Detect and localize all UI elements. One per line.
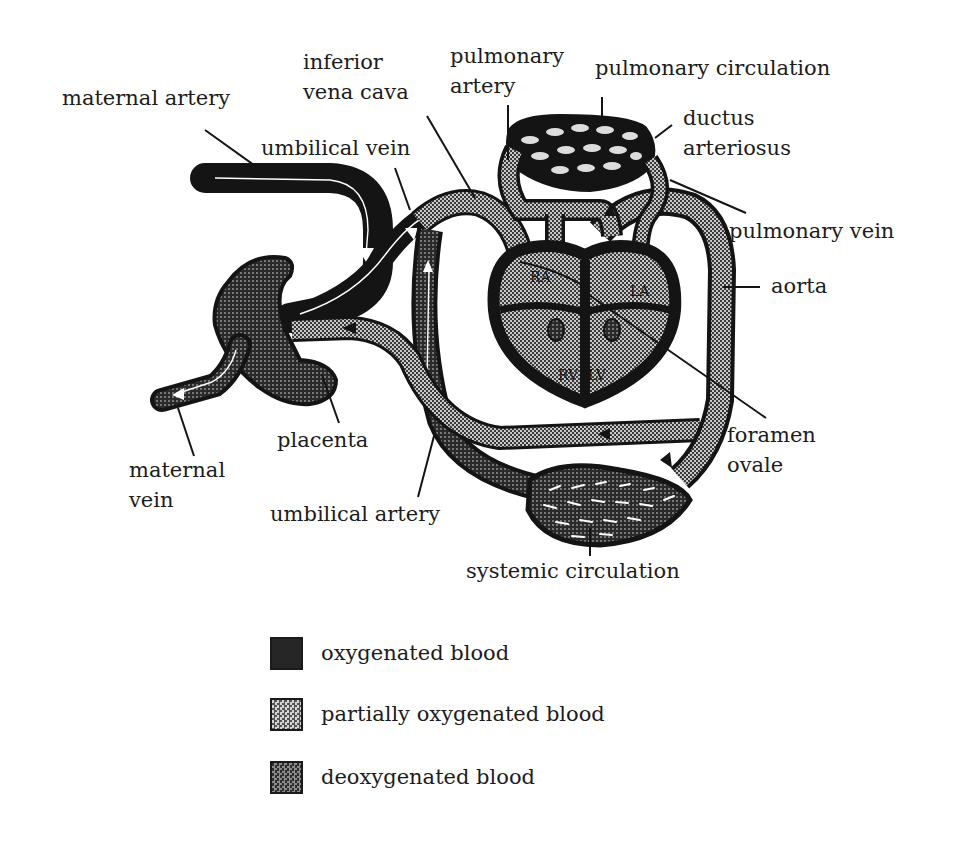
- pulmonary-circulation-shape: [508, 116, 653, 190]
- legend-label: partially oxygenated blood: [321, 702, 605, 726]
- heart-label-lv: LV: [588, 367, 607, 383]
- valve-icon: [604, 319, 620, 341]
- partially-oxygenated-swatch-icon: [270, 698, 303, 731]
- label-ductus-arteriosus-line1: ductus: [683, 104, 754, 133]
- heart-label-la: LA: [630, 283, 650, 299]
- flow-arrow-icon: [660, 452, 672, 468]
- label-inferior-vena-cava-line1: inferior: [303, 48, 383, 77]
- label-inferior-vena-cava-line2: vena cava: [303, 78, 409, 107]
- maternal-vein-vessel: [162, 345, 240, 400]
- label-maternal-artery: maternal artery: [62, 84, 230, 113]
- label-pulmonary-circulation: pulmonary circulation: [595, 54, 830, 83]
- label-maternal-vein-line1: maternal: [129, 456, 225, 485]
- label-placenta: placenta: [277, 426, 368, 455]
- label-pulmonary-artery-line1: pulmonary: [450, 42, 564, 71]
- label-foramen-ovale-line1: foramen: [727, 421, 816, 450]
- label-foramen-ovale-line2: ovale: [727, 451, 783, 480]
- legend-item-partially-oxygenated: partially oxygenated blood: [270, 697, 605, 731]
- label-pulmonary-artery-line2: artery: [450, 72, 515, 101]
- label-maternal-vein-line2: vein: [129, 486, 174, 515]
- valve-icon: [548, 319, 564, 341]
- label-umbilical-vein: umbilical vein: [261, 134, 410, 163]
- heart-label-rv: RV: [558, 367, 579, 383]
- systemic-circulation-shape: [528, 466, 690, 545]
- heart-shape: RA LA RV LV: [494, 246, 676, 402]
- oxygenated-swatch-icon: [270, 637, 303, 670]
- legend-item-oxygenated: oxygenated blood: [270, 636, 509, 670]
- legend-label: deoxygenated blood: [321, 765, 535, 789]
- deoxygenated-swatch-icon: [270, 761, 303, 794]
- legend-label: oxygenated blood: [321, 641, 509, 665]
- label-pulmonary-vein: pulmonary vein: [729, 217, 894, 246]
- label-systemic-circulation: systemic circulation: [466, 557, 680, 586]
- heart-label-ra: RA: [530, 269, 552, 285]
- label-umbilical-artery: umbilical artery: [270, 500, 440, 529]
- legend-item-deoxygenated: deoxygenated blood: [270, 760, 535, 794]
- label-ductus-arteriosus-line2: arteriosus: [683, 134, 791, 163]
- label-aorta: aorta: [771, 272, 827, 301]
